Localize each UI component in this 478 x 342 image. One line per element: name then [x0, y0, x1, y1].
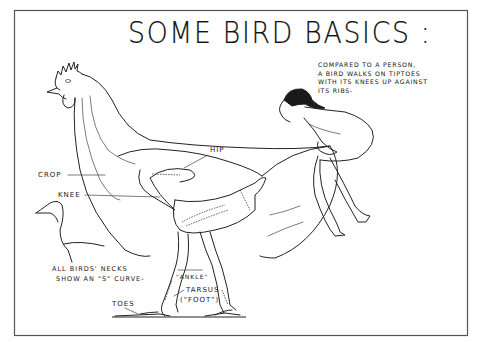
chicken-neck-back: [82, 74, 330, 149]
knee-leader: [85, 195, 160, 197]
note-line: A BIRD WALKS ON TIPTOES: [318, 70, 428, 79]
label-ankle: "ANKLE": [176, 274, 208, 280]
note-line: WITH ITS KNEES UP AGAINST: [318, 78, 428, 87]
label-crop: CROP: [38, 172, 61, 179]
illustration-canvas: SOME BIRD BASICS : COMPARED TO A PERSON,…: [0, 0, 478, 342]
toes-leader: [125, 308, 138, 314]
label-hip: HIP: [210, 147, 225, 154]
chicken-ribcage: [173, 178, 266, 233]
note-line: COMPARED TO A PERSON,: [318, 61, 428, 70]
person-figure: [280, 89, 374, 236]
hip-leader: [184, 155, 208, 168]
drawing: [0, 0, 478, 342]
chicken-eye: [66, 79, 71, 82]
person-leg-back: [330, 158, 370, 222]
comparison-note: COMPARED TO A PERSON, A BIRD WALKS ON TI…: [318, 61, 428, 95]
chicken-wattle: [63, 95, 75, 108]
label-foot: ("FOOT"): [180, 297, 219, 304]
label-knee: KNEE: [58, 192, 81, 199]
chicken-comb: [56, 62, 82, 78]
page-frame: [15, 11, 468, 336]
label-toes: TOES: [112, 301, 135, 308]
swan-outline: [36, 201, 104, 262]
label-tarsus: TARSUS: [186, 287, 219, 294]
label-neck-note-line2: SHOW AN "S" CURVE-: [56, 276, 145, 283]
chicken-tail: [260, 146, 338, 258]
note-line: ITS RIBS-: [318, 87, 428, 96]
label-neck-note-line1: ALL BIRDS' NECKS: [52, 266, 128, 273]
page-title: SOME BIRD BASICS :: [128, 14, 432, 50]
